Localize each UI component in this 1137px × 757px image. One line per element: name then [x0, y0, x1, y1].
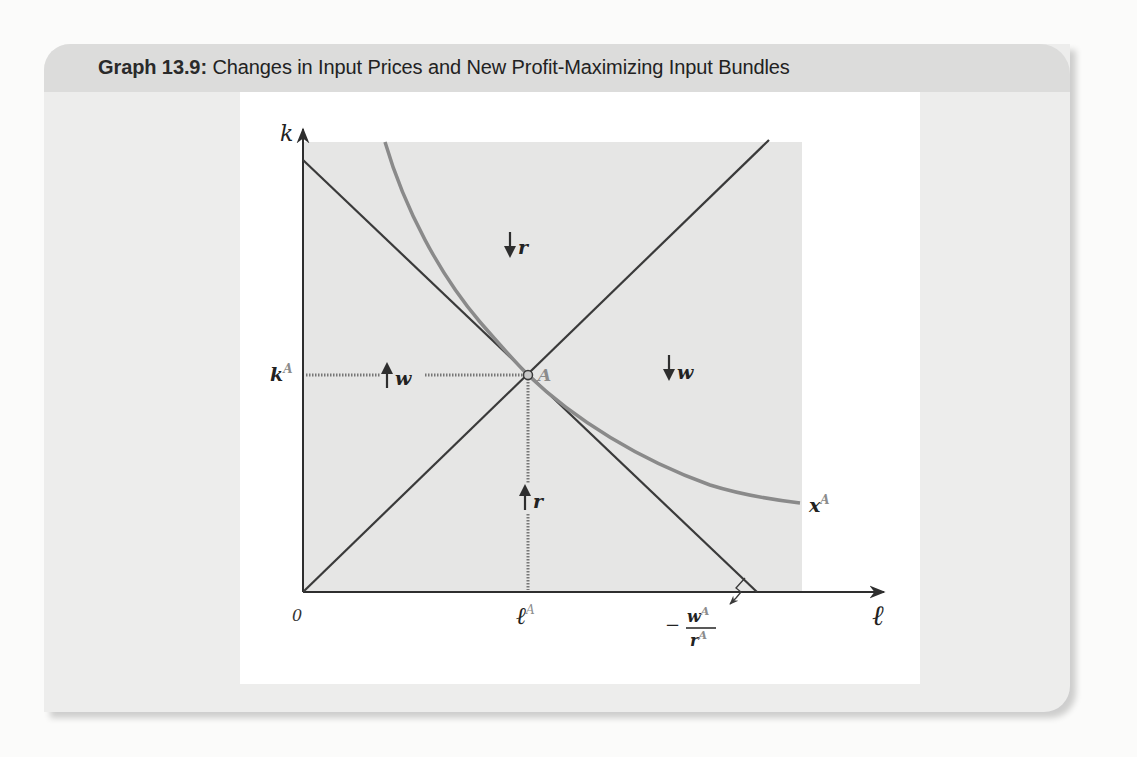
point-a-label: A	[536, 365, 551, 385]
graph-canvas: k ℓ 0 kA ℓA A xA r w w r − wA rA	[0, 0, 1137, 757]
origin-label: 0	[292, 606, 302, 625]
k-axis-label: k	[280, 121, 293, 146]
k-a-label: kA	[270, 362, 292, 385]
point-a-marker	[524, 371, 533, 380]
svg-text:rA: rA	[690, 629, 707, 650]
annotation-w-up: w	[395, 367, 412, 389]
l-a-label: ℓA	[516, 602, 535, 630]
l-axis-label: ℓ	[872, 599, 884, 632]
svg-text:−: −	[665, 614, 680, 635]
svg-text:wA: wA	[687, 605, 710, 626]
annotation-w-down: w	[677, 361, 694, 383]
isoquant-label: xA	[808, 493, 830, 516]
shaded-region	[303, 142, 802, 592]
isocost-slope-label: − wA rA	[665, 605, 716, 650]
